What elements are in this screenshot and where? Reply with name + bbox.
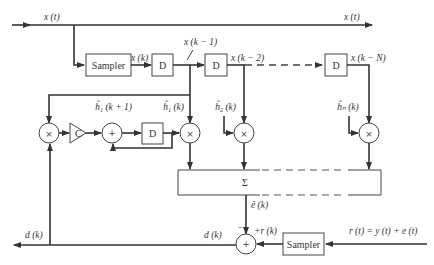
svg-text:×: × [240,129,248,139]
sampler-input-branch [74,25,84,65]
label-x-k-n: x (k − N) [350,53,386,64]
update-adder: + [102,123,122,143]
h2-input [224,116,233,133]
label-x-t-right: x (t) [343,12,360,23]
label-h2: ĥ₂ (k) [215,100,236,113]
label-r-k: +r (k) [254,226,277,237]
sampler-bottom-label: Sampler [287,239,321,250]
label-x-k-1: x (k − 1) [183,37,217,48]
sigma-label: Σ [242,177,248,188]
delay-block-2: D [205,54,227,76]
error-multiplier: × [39,123,59,143]
diagram-svg: x (t) x (t) Sampler x (k) D x (k − 1) D … [0,0,434,265]
svg-text:D: D [159,60,166,71]
svg-text:D: D [149,128,156,139]
label-r-t: r (t) = y (t) + e (t) [349,226,417,237]
label-pointer [187,50,193,60]
svg-text:+: + [242,239,250,249]
coefficient-delay-block: D [142,123,163,144]
label-minus: − [237,223,243,233]
svg-text:D: D [332,60,339,71]
summation-block: Σ [178,170,381,195]
svg-text:×: × [365,129,373,139]
label-h1-next: ĥ₁ (k + 1) [95,100,132,113]
label-x-k-2: x (k − 2) [230,53,264,64]
delay-block-1: D [152,54,173,76]
svg-text:×: × [186,129,194,139]
label-e-hat: ê (k) [251,200,268,211]
gain-block: C [70,123,86,143]
label-x-k: x (k) [130,53,148,64]
sampler-bottom-block: Sampler [283,233,324,255]
hn-input [349,116,358,133]
label-d-k-out: d (k) [25,230,43,241]
delay-block-n: D [325,54,347,76]
label-d-k-mid: d (k) [204,230,222,241]
sampler-top-block: Sampler [86,54,131,76]
svg-text:D: D [212,60,219,71]
svg-text:×: × [45,129,53,139]
tap-multiplier-1: × [180,123,200,143]
sampler-top-label: Sampler [92,60,126,71]
tap-multiplier-2: × [234,123,254,143]
label-h1: ĥ₁ (k) [163,100,184,113]
tap-multiplier-n: × [359,123,379,143]
label-hn: ĥₙ (k) [337,100,359,113]
svg-text:C: C [75,128,82,139]
label-x-t-left: x (t) [43,12,60,23]
svg-text:+: + [108,128,116,138]
xkn-tap [347,65,369,123]
output-adder: + [236,234,256,254]
adaptive-filter-diagram: x (t) x (t) Sampler x (k) D x (k − 1) D … [0,0,434,265]
